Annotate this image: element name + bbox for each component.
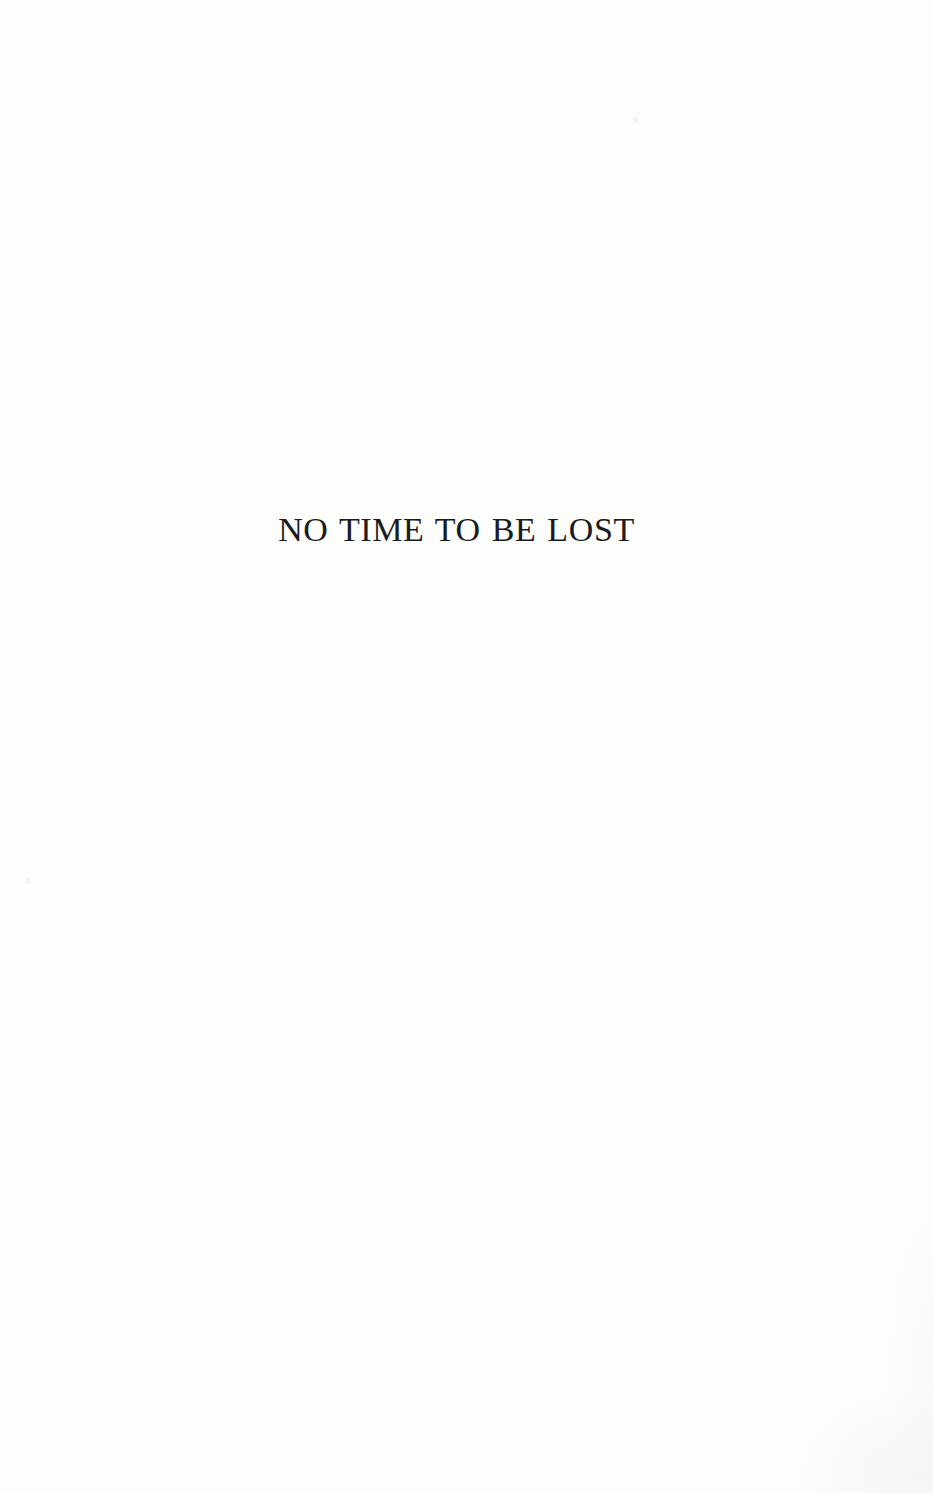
- page-corner-shading: [0, 0, 933, 1493]
- page-title: NO TIME TO BE LOST: [278, 508, 635, 552]
- scan-speck-upper-right: [633, 116, 638, 123]
- title-block: NO TIME TO BE LOST: [0, 508, 913, 552]
- scan-speck-lower-left: [26, 877, 30, 884]
- book-page: NO TIME TO BE LOST: [0, 0, 933, 1493]
